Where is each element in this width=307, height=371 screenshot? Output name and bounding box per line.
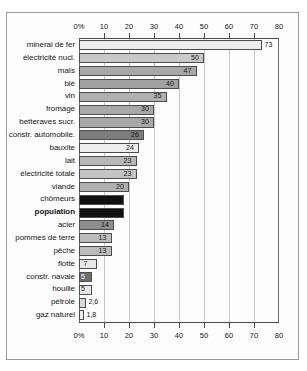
axis-tick — [254, 33, 255, 38]
bar-row: chômeurs — [79, 193, 279, 206]
category-label: pêche — [53, 245, 79, 258]
bar-value-label: 23 — [124, 155, 132, 168]
bar-row: lait23 — [79, 155, 279, 168]
chart-frame: minerai de fer73électricité nucl.50maïs4… — [6, 12, 299, 360]
bar-row: fromage30 — [79, 103, 279, 116]
axis-tick-label: 60 — [225, 331, 234, 340]
axis-tick-label: 70 — [250, 22, 259, 31]
category-label: houille — [52, 283, 79, 296]
axis-tick — [104, 323, 105, 328]
bar-value-label: 26 — [131, 129, 139, 142]
axis-tick — [129, 323, 130, 328]
bar-row: viande20 — [79, 181, 279, 194]
bar-row: électricité totale23 — [79, 168, 279, 181]
axis-tick-label: 40 — [175, 22, 184, 31]
bar — [79, 79, 179, 89]
category-label: pétrole — [51, 296, 79, 309]
category-label: bauxite — [50, 142, 79, 155]
bar — [79, 53, 204, 63]
bar-row: betteraves sucr.30 — [79, 116, 279, 129]
axis-tick — [154, 33, 155, 38]
bar-value-label: 5 — [81, 271, 85, 284]
bar-row: électricité nucl.50 — [79, 52, 279, 65]
axis-tick — [129, 33, 130, 38]
category-label: vin — [65, 90, 79, 103]
axis-tick-label: 20 — [125, 22, 134, 31]
axis-tick-label: 50 — [200, 331, 209, 340]
axis-tick-label: 20 — [125, 331, 134, 340]
bar-value-label: 20 — [116, 181, 124, 194]
bar-row: constr. automobile.26 — [79, 129, 279, 142]
category-label: gaz naturel — [36, 309, 79, 322]
category-label: lait — [65, 155, 79, 168]
bar-value-label: 2,6 — [89, 296, 99, 309]
axis-tick — [179, 323, 180, 328]
bar-value-label: 40 — [166, 78, 174, 91]
category-label: population — [35, 206, 79, 219]
bar-value-label: 30 — [141, 103, 149, 116]
category-label: minerai de fer — [27, 39, 79, 52]
bar-row: flotte7 — [79, 258, 279, 271]
axis-tick-label: 0% — [73, 331, 84, 340]
category-label: fromage — [46, 103, 79, 116]
bar-value-label: 47 — [184, 65, 192, 78]
bar-row: maïs47 — [79, 65, 279, 78]
axis-tick-label: 0% — [73, 22, 84, 31]
axis-tick — [229, 33, 230, 38]
bar-row: acier14 — [79, 219, 279, 232]
axis-tick-label: 10 — [100, 22, 109, 31]
bar-row: pétrole2,6 — [79, 296, 279, 309]
bar-row: houille5 — [79, 283, 279, 296]
bar — [79, 310, 84, 320]
bar-value-label: 13 — [99, 245, 107, 258]
category-label: viande — [52, 181, 79, 194]
axis-tick-label: 40 — [175, 331, 184, 340]
bar — [79, 208, 124, 218]
axis-tick — [204, 323, 205, 328]
bar-row: bauxite24 — [79, 142, 279, 155]
bar — [79, 66, 197, 76]
axis-tick-label: 60 — [225, 22, 234, 31]
axis-tick-label: 70 — [250, 331, 259, 340]
bar-value-label: 7 — [84, 258, 88, 271]
bar — [79, 246, 112, 256]
bar — [79, 195, 124, 205]
bar-value-label: 35 — [154, 90, 162, 103]
bar — [79, 233, 112, 243]
category-label: pommes de terre — [15, 232, 79, 245]
category-label: betteraves sucr. — [19, 116, 79, 129]
bar — [79, 259, 97, 269]
axis-top — [79, 38, 279, 39]
category-label: maïs — [58, 65, 79, 78]
bar-row: pommes de terre13 — [79, 232, 279, 245]
bar — [79, 298, 86, 308]
axis-tick-label: 10 — [100, 331, 109, 340]
bar-row: population — [79, 206, 279, 219]
bar-value-label: 73 — [265, 39, 273, 52]
axis-tick — [179, 33, 180, 38]
bar-value-label: 14 — [101, 219, 109, 232]
axis-tick-label: 30 — [150, 22, 159, 31]
category-label: constr. navale — [26, 271, 79, 284]
axis-tick-label: 30 — [150, 331, 159, 340]
bar-row: blé40 — [79, 78, 279, 91]
bar-value-label: 23 — [124, 168, 132, 181]
bar-row: minerai de fer73 — [79, 39, 279, 52]
axis-tick — [104, 33, 105, 38]
bar-row: constr. navale5 — [79, 271, 279, 284]
bar-value-label: 5 — [81, 283, 85, 296]
bar-row: vin35 — [79, 90, 279, 103]
category-label: blé — [64, 78, 79, 91]
plot-area: minerai de fer73électricité nucl.50maïs4… — [79, 39, 279, 322]
bar — [79, 40, 262, 50]
axis-tick — [229, 323, 230, 328]
axis-tick-label: 50 — [200, 22, 209, 31]
category-label: constr. automobile. — [9, 129, 79, 142]
category-label: électricité totale — [20, 168, 79, 181]
axis-tick — [204, 33, 205, 38]
axis-tick-label: 80 — [275, 22, 284, 31]
category-label: acier — [58, 219, 79, 232]
axis-tick-label: 80 — [275, 331, 284, 340]
axis-tick — [254, 323, 255, 328]
bar-value-label: 24 — [126, 142, 134, 155]
